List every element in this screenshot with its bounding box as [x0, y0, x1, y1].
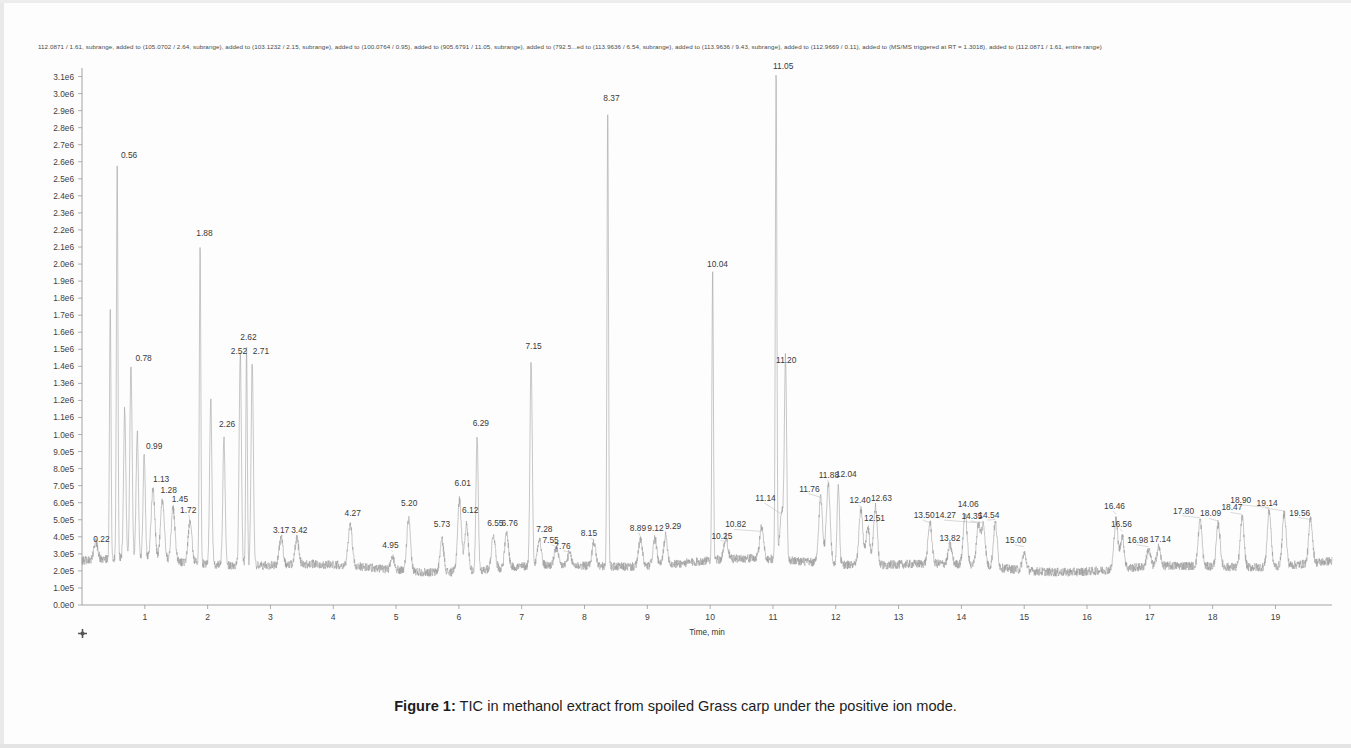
x-axis-tick-label: 12: [831, 612, 841, 622]
y-axis-tick-label: 2.0e5: [53, 566, 74, 576]
peak-retention-time-label: 13.50: [914, 510, 935, 520]
peak-retention-time-label: 12.63: [871, 493, 892, 503]
peak-retention-time-label: 8.37: [603, 93, 620, 103]
y-axis-ticks: 0.0e01.0e52.0e53.0e54.0e55.0e56.0e57.0e5…: [53, 72, 82, 610]
chromatogram-chart: 0.0e01.0e52.0e53.0e54.0e55.0e56.0e57.0e5…: [0, 60, 1351, 680]
peak-retention-time-label: 16.56: [1111, 519, 1132, 529]
x-axis-tick-label: 9: [645, 612, 650, 622]
x-axis-title-label: Time, min: [689, 628, 725, 637]
y-axis-tick-label: 3.0e6: [53, 89, 74, 99]
peak-retention-time-label: 9.29: [665, 521, 682, 531]
peak-retention-time-label: 10.25: [711, 531, 732, 541]
x-axis-tick-label: 13: [894, 612, 904, 622]
peak-retention-time-label: 6.01: [454, 478, 471, 488]
y-axis-tick-label: 1.2e6: [53, 395, 74, 405]
chromatogram-plot-area: 0.0e01.0e52.0e53.0e54.0e55.0e56.0e57.0e5…: [0, 60, 1351, 680]
page-edge-top: [0, 0, 1351, 3]
peak-retention-time-label: 3.17: [273, 525, 290, 535]
peak-retention-time-label: 13.82: [939, 533, 960, 543]
y-axis-tick-label: 2.2e6: [53, 225, 74, 235]
peak-retention-time-label: 2.62: [240, 332, 257, 342]
tic-trace-path: [82, 75, 1332, 576]
y-axis-tick-label: 1.5e6: [53, 344, 74, 354]
figure-page: 112.0871 / 1.61, subrange, added to (105…: [0, 0, 1351, 748]
y-axis-tick-label: 2.0e6: [53, 259, 74, 269]
y-axis-tick-label: 8.0e5: [53, 464, 74, 474]
peak-retention-time-label: 7.28: [536, 524, 553, 534]
y-axis-tick-label: 2.6e6: [53, 157, 74, 167]
peak-retention-time-label: 18.90: [1230, 495, 1251, 505]
peak-retention-time-label: 9.12: [647, 523, 664, 533]
peak-retention-time-label: 12.04: [836, 469, 857, 479]
x-axis-tick-label: 5: [394, 612, 399, 622]
peak-retention-time-label: 12.40: [850, 495, 871, 505]
peak-retention-time-label: 0.22: [93, 534, 110, 544]
x-axis-tick-label: 18: [1208, 612, 1218, 622]
y-axis-tick-label: 2.7e6: [53, 140, 74, 150]
x-axis-title: Time, min: [689, 628, 725, 637]
y-axis-tick-label: 0.0e0: [53, 600, 74, 610]
peak-retention-time-label: 10.82: [725, 519, 746, 529]
peak-retention-time-label: 0.78: [135, 353, 152, 363]
peak-retention-time-label: 14.27: [935, 510, 956, 520]
x-axis-tick-label: 15: [1019, 612, 1029, 622]
peak-retention-time-label: 19.14: [1257, 498, 1278, 508]
tic-trace: [82, 75, 1332, 576]
y-axis-tick-label: 1.8e6: [53, 293, 74, 303]
peak-retention-time-label: 8.89: [630, 523, 647, 533]
page-edge-bottom: [0, 744, 1351, 748]
x-axis-tick-label: 17: [1145, 612, 1155, 622]
peak-retention-time-label: 5.73: [434, 519, 451, 529]
y-axis-tick-label: 2.5e6: [53, 174, 74, 184]
figure-caption-label: Figure 1:: [394, 698, 456, 714]
y-axis-tick-label: 1.0e6: [53, 430, 74, 440]
peak-retention-time-label: 6.29: [473, 418, 490, 428]
y-axis-tick-label: 3.1e6: [53, 72, 74, 82]
peak-retention-time-label: 7.76: [554, 541, 571, 551]
x-axis-tick-label: 7: [519, 612, 524, 622]
peak-retention-time-label: 0.56: [121, 150, 138, 160]
x-axis-tick-label: 19: [1271, 612, 1281, 622]
peak-retention-time-label: 2.52: [231, 346, 248, 356]
peak-retention-time-label: 17.14: [1150, 534, 1171, 544]
peak-retention-time-label: 1.45: [172, 494, 189, 504]
y-axis-tick-label: 1.1e6: [53, 412, 74, 422]
y-axis-tick-label: 2.4e6: [53, 191, 74, 201]
peak-retention-time-label: 14.06: [958, 499, 979, 509]
chromatogram-header-text: 112.0871 / 1.61, subrange, added to (105…: [38, 42, 1328, 52]
y-axis-tick-label: 1.3e6: [53, 378, 74, 388]
y-axis-tick-label: 9.0e5: [53, 447, 74, 457]
axis-lines: [82, 68, 1332, 605]
peak-retention-time-label: 11.76: [799, 484, 820, 494]
peak-retention-time-label: 18.09: [1200, 508, 1221, 518]
y-axis-tick-label: 5.0e5: [53, 515, 74, 525]
peak-retention-time-label: 10.04: [707, 259, 728, 269]
peak-retention-time-label: 16.46: [1104, 501, 1125, 511]
x-axis-tick-label: 10: [705, 612, 715, 622]
y-axis-tick-label: 7.0e5: [53, 481, 74, 491]
x-axis-tick-label: 11: [768, 612, 777, 622]
y-axis-tick-label: 1.4e6: [53, 361, 74, 371]
peak-leader-lines: [189, 352, 1311, 551]
peak-retention-time-label: 6.12: [462, 505, 479, 515]
figure-caption-text: TIC in methanol extract from spoiled Gra…: [456, 698, 957, 714]
peak-retention-time-label: 16.98: [1127, 535, 1148, 545]
x-axis-tick-label: 2: [205, 612, 210, 622]
y-axis-tick-label: 3.0e5: [53, 549, 74, 559]
peak-retention-time-label: 0.99: [146, 441, 163, 451]
x-axis-ticks: 12345678910111213141516171819: [142, 605, 1280, 622]
y-axis-tick-label: 2.3e6: [53, 208, 74, 218]
x-axis-tick-label: 16: [1082, 612, 1092, 622]
y-axis-tick-label: 2.1e6: [53, 242, 74, 252]
x-axis-tick-label: 4: [331, 612, 336, 622]
peak-retention-time-label: 11.20: [776, 355, 797, 365]
figure-caption: Figure 1: TIC in methanol extract from s…: [0, 698, 1351, 714]
y-axis-tick-label: 2.8e6: [53, 123, 74, 133]
y-axis-tick-label: 6.0e5: [53, 498, 74, 508]
y-axis-tick-label: 4.0e5: [53, 532, 74, 542]
x-axis-tick-label: 6: [456, 612, 461, 622]
peak-retention-time-label: 11.14: [755, 493, 776, 503]
peak-retention-time-label: 5.20: [401, 498, 418, 508]
peak-retention-time-label: 14.54: [978, 510, 999, 520]
x-axis-tick-label: 1: [142, 612, 147, 622]
